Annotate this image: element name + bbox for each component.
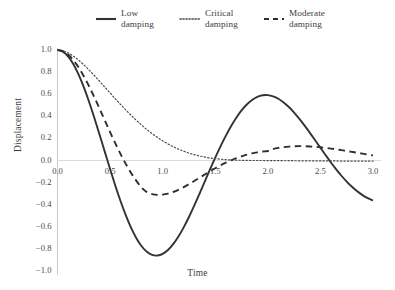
y-tick-label: −0.2	[26, 177, 52, 187]
series-line-critical-damping	[58, 50, 374, 161]
x-tick-label: 1.0	[148, 166, 178, 176]
series-line-low-damping	[58, 50, 374, 256]
y-tick-label: 0.2	[26, 132, 52, 142]
y-tick-label: −0.4	[26, 199, 52, 209]
x-tick-label: 1.5	[200, 166, 230, 176]
x-tick-label: 2.5	[305, 166, 335, 176]
y-tick-label: 0.0	[26, 155, 52, 165]
y-tick-label: 0.8	[26, 66, 52, 76]
x-tick-label: 3.0	[358, 166, 388, 176]
y-tick-label: 1.0	[26, 44, 52, 54]
y-tick-label: −1.0	[26, 265, 52, 275]
x-tick-label: 0.5	[95, 166, 125, 176]
y-tick-label: 0.6	[26, 88, 52, 98]
x-tick-label: 0.0	[43, 166, 73, 176]
y-tick-label: −0.8	[26, 243, 52, 253]
plot-area	[0, 0, 395, 290]
chart-figure: Low damping Critical damping Moderate da…	[0, 0, 395, 290]
y-tick-label: −0.6	[26, 221, 52, 231]
x-tick-label: 2.0	[253, 166, 283, 176]
y-tick-label: 0.4	[26, 110, 52, 120]
